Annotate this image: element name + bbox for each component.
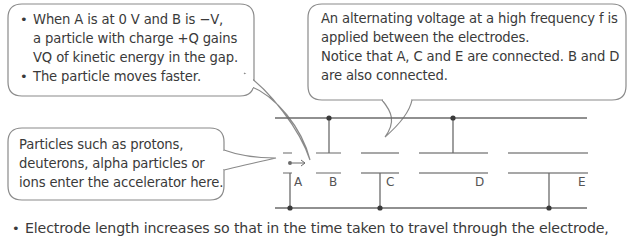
callout-line: VQ of kinetic energy in the gap. (33, 48, 238, 67)
particle-arrow-icon (292, 160, 305, 166)
callout-line: An alternating voltage at a high frequen… (321, 9, 619, 28)
electrode-label-e: E (578, 175, 586, 189)
callout-line: Particles such as protons, (19, 135, 223, 154)
callout-tail-left (224, 150, 276, 170)
callout-line: Notice that A, C and E are connected. B … (321, 47, 619, 66)
callout-tail-top-left (244, 73, 310, 160)
electrode-label-c: C (386, 175, 394, 189)
callout-line: deuterons, alpha particles or (19, 154, 223, 173)
electrode-label-a: A (294, 175, 302, 189)
callout-line: ions enter the accelerator here. (19, 173, 223, 192)
footer-bullet: Electrode length increases so that in th… (25, 219, 609, 238)
junction-dots (287, 115, 551, 210)
callout-bullet: The particle moves faster. (33, 67, 238, 86)
particle-dot (288, 161, 292, 165)
electrode-connections (290, 118, 549, 208)
electrode-label-b: B (329, 175, 337, 189)
footer-text: Electrode length increases so that in th… (25, 219, 609, 238)
callout-top-right-text: An alternating voltage at a high frequen… (321, 9, 619, 85)
callout-line: a particle with charge +Q gains (33, 29, 238, 48)
electrode-label-d: D (475, 175, 484, 189)
callout-left-text: Particles such as protons, deuterons, al… (19, 135, 223, 192)
callout-bullet: When A is at 0 V and B is −V, (33, 10, 238, 29)
callout-top-left-text: When A is at 0 V and B is −V, a particle… (33, 10, 238, 86)
callout-line: are also connected. (321, 66, 619, 85)
electrode-plates (283, 153, 588, 173)
callout-line: applied between the electrodes. (321, 28, 619, 47)
